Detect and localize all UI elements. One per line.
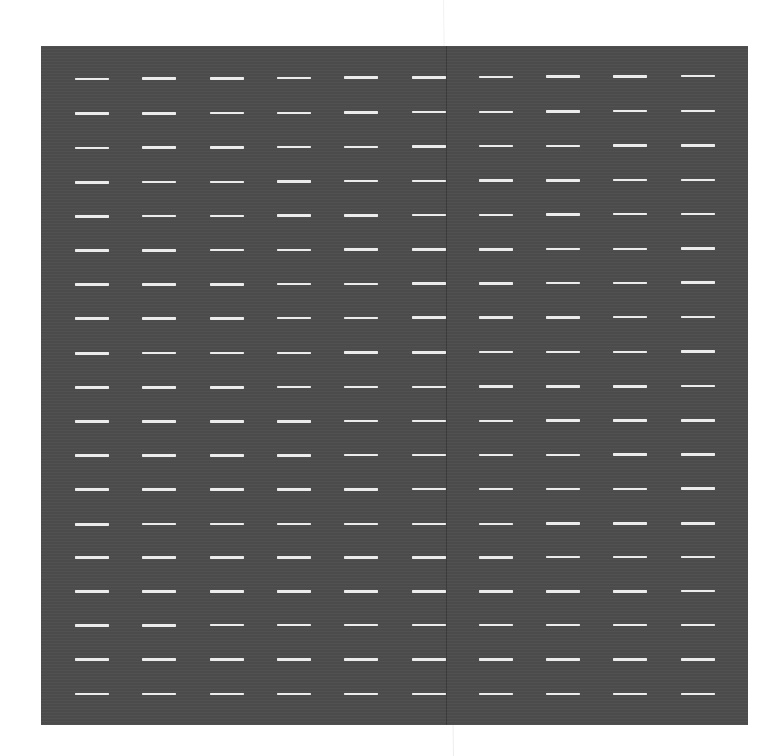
dash-mark: [277, 556, 311, 559]
dash-mark: [681, 419, 715, 422]
dash-mark: [681, 179, 715, 182]
dash-mark: [142, 112, 176, 115]
dash-mark: [344, 658, 378, 661]
dash-mark: [613, 351, 647, 354]
dash-mark: [75, 556, 109, 559]
dash-mark: [412, 316, 446, 319]
dash-mark: [681, 693, 715, 696]
dash-mark: [412, 624, 446, 627]
dash-mark: [412, 454, 446, 457]
dash-mark: [412, 420, 446, 423]
dash-mark: [210, 352, 244, 355]
dash-mark: [142, 249, 176, 252]
dash-mark: [210, 386, 244, 389]
dash-mark: [142, 283, 176, 286]
dash-mark: [142, 77, 176, 80]
dash-mark: [479, 282, 513, 285]
dash-mark: [479, 76, 513, 79]
dash-mark: [546, 248, 580, 251]
dash-mark: [681, 213, 715, 216]
dash-mark: [210, 523, 244, 526]
dash-mark: [75, 181, 109, 184]
dash-mark: [210, 215, 244, 218]
dash-mark: [210, 181, 244, 184]
dash-mark: [613, 522, 647, 525]
dash-mark: [344, 76, 378, 79]
dash-mark: [479, 454, 513, 457]
dash-mark: [412, 590, 446, 593]
dash-mark: [681, 658, 715, 661]
dash-mark: [546, 110, 580, 113]
dash-mark: [681, 247, 715, 250]
dash-mark: [479, 488, 513, 491]
dash-mark: [75, 249, 109, 252]
dash-mark: [75, 454, 109, 457]
dash-mark: [412, 145, 446, 148]
dash-mark: [681, 624, 715, 627]
dash-mark: [142, 420, 176, 423]
dash-mark: [479, 316, 513, 319]
dash-mark: [210, 454, 244, 457]
dash-mark: [479, 590, 513, 593]
dash-mark: [277, 214, 311, 217]
dash-mark: [75, 420, 109, 423]
dash-mark: [546, 179, 580, 182]
dash-mark: [613, 385, 647, 388]
dash-mark: [277, 283, 311, 286]
dash-mark: [546, 590, 580, 593]
dash-mark: [681, 350, 715, 353]
dash-mark: [546, 385, 580, 388]
dash-mark: [479, 556, 513, 559]
dash-mark: [75, 147, 109, 150]
dash-mark: [142, 386, 176, 389]
dash-mark: [75, 112, 109, 115]
dash-mark: [210, 693, 244, 696]
dash-mark: [75, 386, 109, 389]
dash-mark: [277, 658, 311, 661]
dash-mark: [681, 75, 715, 78]
dash-mark: [142, 488, 176, 491]
dash-mark: [613, 144, 647, 147]
dash-mark: [142, 556, 176, 559]
dash-mark: [75, 590, 109, 593]
dash-mark: [613, 556, 647, 559]
dash-mark: [277, 590, 311, 593]
dash-mark: [546, 693, 580, 696]
dash-mark: [412, 351, 446, 354]
dash-mark: [210, 658, 244, 661]
dash-mark: [613, 179, 647, 182]
dash-mark: [344, 420, 378, 423]
dash-mark: [613, 248, 647, 251]
dash-mark: [210, 146, 244, 149]
dash-mark: [479, 179, 513, 182]
dash-mark: [613, 316, 647, 319]
dash-mark: [546, 454, 580, 457]
dash-mark: [344, 693, 378, 696]
dash-mark: [210, 420, 244, 423]
dash-mark: [142, 215, 176, 218]
dash-mark: [210, 112, 244, 115]
dash-mark: [277, 352, 311, 355]
dash-mark: [75, 523, 109, 526]
dash-mark: [479, 420, 513, 423]
dash-mark: [277, 454, 311, 457]
dash-mark: [142, 454, 176, 457]
dash-mark: [412, 248, 446, 251]
dash-mark: [613, 453, 647, 456]
dash-mark: [681, 110, 715, 113]
dash-mark: [142, 317, 176, 320]
dash-mark: [142, 590, 176, 593]
dash-mark: [479, 658, 513, 661]
dash-mark: [277, 523, 311, 526]
dash-mark: [613, 419, 647, 422]
dash-mark: [142, 181, 176, 184]
dash-mark: [277, 249, 311, 252]
dash-mark: [412, 214, 446, 217]
dash-mark: [75, 693, 109, 696]
dash-mark: [210, 77, 244, 80]
dash-mark: [75, 658, 109, 661]
dash-mark: [344, 214, 378, 217]
dash-mark: [546, 75, 580, 78]
dash-mark: [412, 76, 446, 79]
dash-mark: [277, 112, 311, 115]
